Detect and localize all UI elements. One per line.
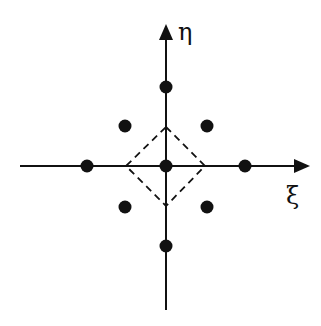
xi-label: ξ [286, 182, 299, 210]
lattice-point-right [239, 160, 252, 173]
xi-axis-arrowhead [294, 159, 310, 173]
lattice-point-upper-right [201, 120, 214, 133]
lattice-point-bottom [160, 240, 173, 253]
eta-axis-arrowhead [159, 24, 173, 40]
lattice-point-lower-left [119, 201, 132, 214]
lattice-point-top [160, 81, 173, 94]
lattice-point-left [81, 160, 94, 173]
lattice-point-origin [160, 160, 173, 173]
eta-label: η [178, 18, 192, 46]
lattice-point-lower-right [201, 201, 214, 214]
lattice-diagram: η ξ [0, 0, 321, 326]
lattice-point-upper-left [119, 120, 132, 133]
